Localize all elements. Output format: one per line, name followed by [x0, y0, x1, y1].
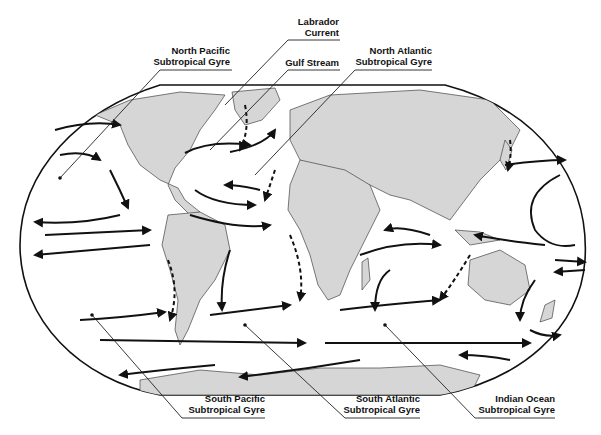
label-south-atlantic-gyre: South Atlantic Subtropical Gyre — [343, 393, 420, 415]
label-south-pacific-gyre: South Pacific Subtropical Gyre — [188, 393, 265, 415]
label-labrador-current: Labrador Current — [298, 16, 339, 38]
label-north-pacific-gyre: North Pacific Subtropical Gyre — [153, 45, 230, 67]
label-gulf-stream: Gulf Stream — [285, 57, 339, 68]
label-north-atlantic-gyre: North Atlantic Subtropical Gyre — [355, 45, 432, 67]
label-indian-ocean-gyre: Indian Ocean Subtropical Gyre — [478, 393, 555, 415]
